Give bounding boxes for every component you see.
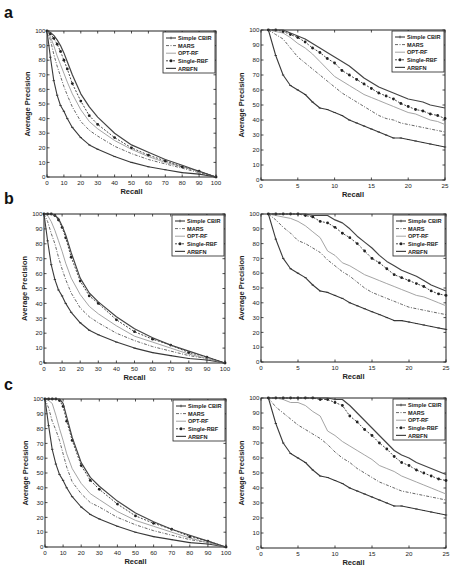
y-tick-label: 90 xyxy=(36,225,43,232)
legend-entry: MARS xyxy=(178,43,195,49)
x-tick-label: 20 xyxy=(78,549,85,556)
y-tick-label: 30 xyxy=(253,314,260,321)
legend-entry: Simple CBIR xyxy=(407,34,441,40)
x-tick-label: 0 xyxy=(259,550,263,557)
x-tick-label: 60 xyxy=(150,549,157,556)
y-tick-label: 30 xyxy=(37,499,44,506)
x-tick-label: 80 xyxy=(186,549,193,556)
figure: 0102030405060708090100010203040506070809… xyxy=(0,0,468,579)
x-tick-label: 90 xyxy=(196,179,203,186)
x-tick-label: 25 xyxy=(442,182,449,189)
x-tick-label: 0 xyxy=(259,182,263,189)
x-tick-label: 40 xyxy=(111,179,118,186)
y-tick-label: 20 xyxy=(253,329,260,336)
y-tick-label: 60 xyxy=(253,269,260,276)
legend-entry: OPT-RF xyxy=(178,50,199,56)
y-tick-label: 40 xyxy=(37,484,44,491)
y-tick-label: 60 xyxy=(36,270,43,277)
x-tick-label: 15 xyxy=(368,182,375,189)
y-tick-label: 20 xyxy=(36,329,43,336)
chart-c-right: 05101520250102030405060708090100RecallAv… xyxy=(237,394,450,567)
x-tick-label: 15 xyxy=(369,364,376,371)
y-tick-label: 70 xyxy=(253,71,260,78)
legend-entry: OPT-RF xyxy=(188,418,209,424)
y-tick-label: 90 xyxy=(253,41,260,48)
legend-entry: MARS xyxy=(187,226,204,232)
legend-entry: Simple CBIR xyxy=(178,35,212,41)
legend-entry: Single-RBF xyxy=(408,241,439,247)
y-tick-label: 10 xyxy=(36,344,43,351)
x-tick-label: 10 xyxy=(332,550,339,557)
y-tick-label: 80 xyxy=(253,56,260,63)
x-tick-label: 60 xyxy=(145,179,152,186)
legend: Simple CBIRMARSOPT-RFSingle-RBFARBFN xyxy=(393,399,445,440)
x-tick-label: 0 xyxy=(43,549,47,556)
y-tick-label: 30 xyxy=(253,131,260,138)
y-tick-label: 40 xyxy=(253,484,260,491)
y-axis-label: Average Precision xyxy=(21,440,30,506)
x-tick-label: 90 xyxy=(203,365,210,372)
x-axis-label: Recall xyxy=(342,558,364,567)
y-tick-label: 30 xyxy=(253,499,260,506)
y-tick-label: 80 xyxy=(253,424,260,431)
legend-entry: Single-RBF xyxy=(178,58,209,64)
x-tick-label: 90 xyxy=(204,549,211,556)
y-tick-label: 50 xyxy=(253,284,260,291)
legend-entry: Simple CBIR xyxy=(187,218,221,224)
y-tick-label: 0 xyxy=(256,176,260,183)
legend-entry: MARS xyxy=(408,226,425,232)
y-tick-label: 90 xyxy=(39,42,46,49)
x-tick-label: 50 xyxy=(132,549,139,556)
y-tick-label: 100 xyxy=(249,26,260,33)
y-tick-label: 50 xyxy=(37,469,44,476)
y-tick-label: 0 xyxy=(39,359,43,366)
x-tick-label: 30 xyxy=(95,365,102,372)
x-tick-label: 100 xyxy=(211,179,222,186)
y-tick-label: 40 xyxy=(253,116,260,123)
legend-entry: ARBFN xyxy=(187,249,207,255)
y-tick-label: 70 xyxy=(36,255,43,262)
y-tick-label: 50 xyxy=(253,101,260,108)
x-axis-label: Recall xyxy=(342,372,364,381)
legend: Simple CBIRMARSOPT-RFSingle-RBFARBFN xyxy=(172,215,224,256)
y-tick-label: 70 xyxy=(253,255,260,262)
y-tick-label: 20 xyxy=(253,146,260,153)
legend-entry: Single-RBF xyxy=(187,241,218,247)
legend: Simple CBIRMARSOPT-RFSingle-RBFARBFN xyxy=(163,32,215,73)
x-tick-label: 70 xyxy=(167,365,174,372)
legend-entry: Single-RBF xyxy=(408,425,439,431)
y-tick-label: 10 xyxy=(39,159,46,166)
y-tick-label: 50 xyxy=(36,285,43,292)
x-tick-label: 25 xyxy=(443,550,450,557)
x-tick-label: 0 xyxy=(45,179,49,186)
legend-entry: OPT-RF xyxy=(187,233,208,239)
x-tick-label: 5 xyxy=(296,182,300,189)
x-tick-label: 80 xyxy=(185,365,192,372)
y-tick-label: 100 xyxy=(35,27,46,34)
x-tick-label: 100 xyxy=(220,365,231,372)
x-tick-label: 10 xyxy=(59,365,66,372)
y-tick-label: 90 xyxy=(253,225,260,232)
x-tick-label: 40 xyxy=(113,365,120,372)
chart-b-right: 05101520250102030405060708090100RecallAv… xyxy=(237,210,450,381)
y-tick-label: 10 xyxy=(253,343,260,350)
y-tick-label: 20 xyxy=(253,514,260,521)
legend-entry: Simple CBIR xyxy=(188,403,222,409)
y-tick-label: 70 xyxy=(37,440,44,447)
y-tick-label: 70 xyxy=(253,439,260,446)
x-tick-label: 70 xyxy=(162,179,169,186)
legend-entry: MARS xyxy=(407,42,424,48)
y-tick-label: 40 xyxy=(253,299,260,306)
x-tick-label: 15 xyxy=(369,550,376,557)
x-tick-label: 10 xyxy=(332,364,339,371)
x-tick-label: 0 xyxy=(259,364,263,371)
legend-entry: OPT-RF xyxy=(407,49,428,55)
y-tick-label: 20 xyxy=(39,144,46,151)
legend-entry: ARBFN xyxy=(408,433,428,439)
x-axis-label: Recall xyxy=(120,187,142,196)
x-axis-label: Recall xyxy=(124,557,146,566)
y-tick-label: 0 xyxy=(256,358,260,365)
x-tick-label: 80 xyxy=(179,179,186,186)
x-tick-label: 20 xyxy=(405,182,412,189)
y-tick-label: 90 xyxy=(253,409,260,416)
